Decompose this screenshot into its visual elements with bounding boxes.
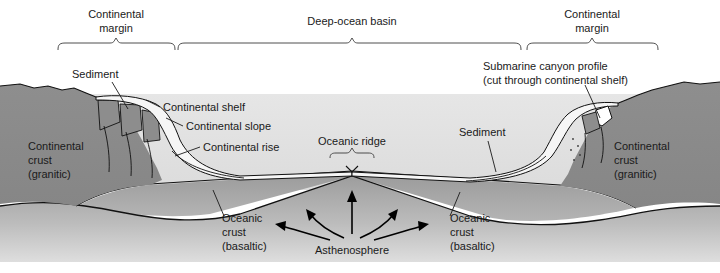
label-text: Continental rise [203, 141, 279, 153]
label-text: Oceanic ridge [318, 135, 386, 147]
label-text-line2: crust [28, 154, 52, 166]
label-text-line1: Oceanic [222, 212, 263, 224]
label-text-line3: (granitic) [614, 168, 657, 180]
label-text-line3: (granitic) [28, 168, 71, 180]
bracket-label-line2: margin [575, 22, 609, 34]
label-text-line3: (basaltic) [222, 240, 267, 252]
label-text: Continental slope [186, 120, 271, 132]
cross-section-body [0, 82, 720, 262]
label-text-line2: crust [222, 226, 246, 238]
bracket-label-line1: Deep-ocean basin [307, 15, 396, 27]
label-text: Continental shelf [163, 101, 246, 113]
label-text-line1: Oceanic [450, 212, 491, 224]
label-text-line2: (cut through continental shelf) [483, 74, 628, 86]
bracket-label-line1: Continental [88, 8, 144, 20]
bracket-label-line1: Continental [564, 8, 620, 20]
bracket-deep-ocean-basin: Deep-ocean basin [178, 15, 521, 50]
label-text: Asthenosphere [315, 244, 389, 256]
label-text: Sediment [72, 68, 118, 80]
label-text-line3: (basaltic) [450, 240, 495, 252]
label-text-line1: Continental [614, 140, 670, 152]
bracket-continental-margin-left: Continental margin [58, 8, 175, 50]
bracket-continental-margin-right: Continental margin [527, 8, 658, 50]
diagram-canvas: Continental margin Deep-ocean basin Cont… [0, 0, 720, 273]
label-text: Sediment [459, 126, 505, 138]
label-text-line2: crust [614, 154, 638, 166]
bracket-label-line2: margin [99, 22, 133, 34]
label-text-line1: Submarine canyon profile [483, 60, 608, 72]
label-text-line1: Continental [28, 140, 84, 152]
label-asthenosphere: Asthenosphere [315, 244, 389, 256]
label-text-line2: crust [450, 226, 474, 238]
